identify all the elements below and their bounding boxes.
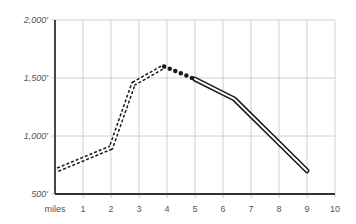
y-tick-label: 1,500' [24,73,49,83]
y-tick-labels: 500'1,000'1,500'2,000' [23,15,49,199]
y-tick-label: 2,000' [23,15,49,25]
x-tick-label: 5 [192,204,197,214]
x-tick-label: 7 [248,204,253,214]
x-tick-label: 4 [164,204,169,214]
grid [51,20,335,198]
x-tick-labels: miles12345678910 [44,204,340,214]
elevation-chart: 500'1,000'1,500'2,000' miles12345678910 [0,0,356,224]
x-tick-label: miles [44,204,66,214]
y-tick-label: 500' [31,189,48,199]
x-tick-label: 6 [220,204,225,214]
x-tick-label: 9 [304,204,309,214]
line-dotted [164,66,195,79]
x-tick-label: 10 [330,204,340,214]
x-tick-label: 3 [136,204,141,214]
data-lines [58,66,307,170]
x-tick-label: 8 [276,204,281,214]
x-tick-label: 2 [108,204,113,214]
y-tick-label: 1,000' [24,131,49,141]
x-tick-label: 1 [80,204,85,214]
